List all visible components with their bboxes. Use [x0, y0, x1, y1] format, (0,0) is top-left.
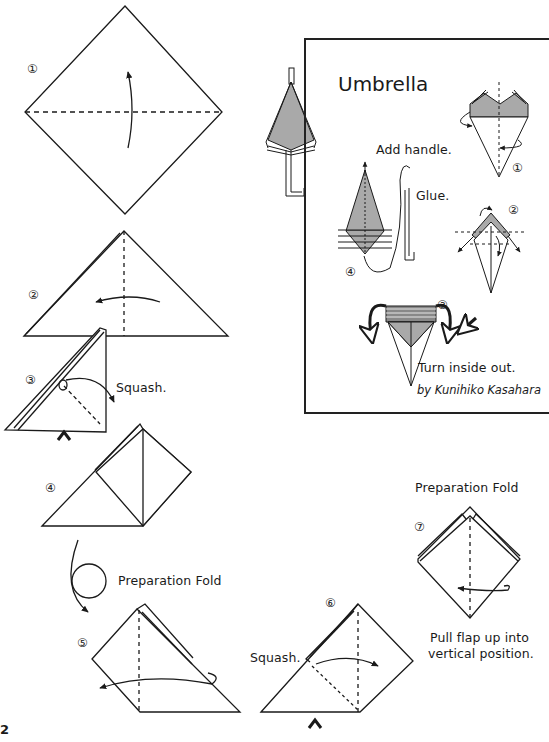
step5-diagram: [92, 604, 240, 712]
step6-diagram: [261, 604, 413, 728]
preparation-fold-symbol: [71, 540, 106, 612]
step-number-5: ⑤: [77, 636, 88, 650]
umbrella-step-number-2: ②: [508, 203, 519, 217]
umbrella-step-number-4: ④: [345, 265, 356, 279]
step-number-1: ①: [27, 62, 38, 76]
umbrella-step-number-1: ①: [512, 161, 523, 175]
umbrella-title: Umbrella: [338, 72, 428, 96]
step4-diagram: [42, 424, 191, 526]
step-number-4: ④: [45, 481, 56, 495]
step3-caption: Squash.: [116, 380, 167, 395]
step6-caption: Squash.: [250, 650, 301, 665]
step7-note-line1: Pull flap up into: [430, 630, 529, 645]
author-credit: by Kunihiko Kasahara: [417, 383, 541, 397]
step-number-3: ③: [25, 373, 36, 387]
page-number: 2: [0, 722, 9, 737]
step7-note-line2: vertical position.: [428, 646, 534, 661]
step3-diagram: [5, 328, 114, 440]
preparation-fold-caption-5: Preparation Fold: [118, 573, 222, 588]
step7-diagram: [418, 507, 520, 618]
step-number-6: ⑥: [325, 596, 336, 610]
umbrella-step-number-3: ③: [437, 298, 448, 312]
step-number-2: ②: [28, 288, 39, 302]
glue-caption: Glue.: [416, 188, 449, 203]
step-number-7: ⑦: [414, 520, 425, 534]
preparation-fold-caption-7: Preparation Fold: [415, 480, 519, 495]
step2-diagram: [24, 231, 228, 336]
step1-diagram: [25, 6, 222, 214]
add-handle-caption: Add handle.: [376, 142, 452, 157]
turn-inside-out-caption: Turn inside out.: [418, 360, 516, 375]
